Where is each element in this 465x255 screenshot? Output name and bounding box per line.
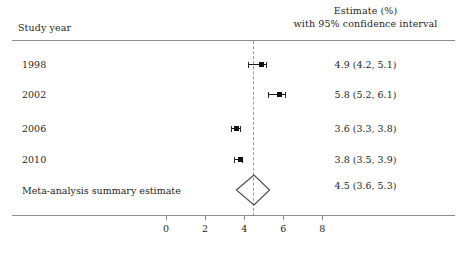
summary-diamond-icon bbox=[0, 0, 465, 255]
forest-plot: Study year Estimate (%) with 95% confide… bbox=[0, 0, 465, 255]
x-tick-6 bbox=[283, 215, 284, 220]
x-tick-0 bbox=[166, 215, 167, 220]
x-tick-label-2: 2 bbox=[195, 223, 215, 234]
x-tick-label-0: 0 bbox=[156, 223, 176, 234]
x-axis-line bbox=[12, 215, 455, 216]
x-tick-4 bbox=[244, 215, 245, 220]
x-tick-8 bbox=[322, 215, 323, 220]
x-tick-label-6: 6 bbox=[273, 223, 293, 234]
x-tick-label-8: 8 bbox=[312, 223, 332, 234]
x-tick-label-4: 4 bbox=[234, 223, 254, 234]
x-tick-2 bbox=[205, 215, 206, 220]
